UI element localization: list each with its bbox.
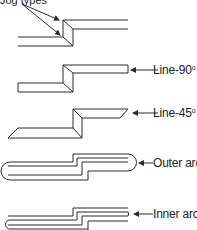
diagram-outer-arc — [1, 154, 153, 180]
label-outer-arc: Outer arc — [153, 157, 197, 169]
diagram-line-90 — [18, 65, 158, 92]
label-line-45: Line-45o — [153, 107, 195, 119]
label-inner-arc: Inner arc — [153, 208, 197, 220]
diagram-inner-arc — [6, 208, 154, 230]
diagram-jog-basic — [18, 4, 128, 46]
label-line-90: Line-90o — [153, 64, 195, 76]
diagram-line-45 — [8, 109, 158, 138]
